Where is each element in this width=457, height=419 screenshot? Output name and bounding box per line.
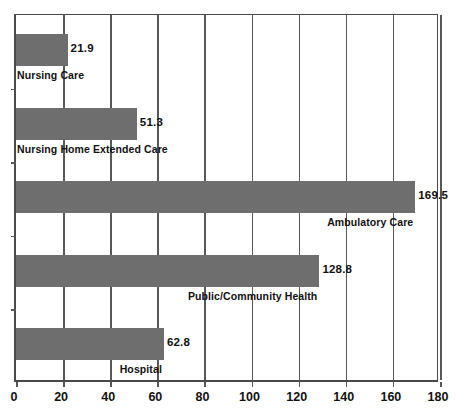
bar	[16, 181, 415, 213]
x-tick-label-40: 40	[101, 391, 115, 404]
bar-category-label: Public/Community Health	[188, 291, 317, 302]
bar-chart: 21.951.3169.5128.862.8 Nursing CareNursi…	[0, 0, 457, 419]
x-tick-140	[346, 382, 348, 387]
x-tick-40	[110, 382, 112, 387]
bar-value-label: 169.5	[418, 190, 448, 202]
x-tick-label-80: 80	[195, 391, 209, 404]
bar-category-label: Ambulatory Care	[327, 217, 413, 228]
bar	[16, 34, 68, 66]
y-tick-2	[11, 162, 16, 164]
bar-category-label: Nursing Care	[17, 70, 84, 81]
x-tick-label-120: 120	[286, 391, 307, 404]
bar	[16, 328, 164, 360]
x-tick-120	[299, 382, 301, 387]
bar-category-label: Nursing Home Extended Care	[17, 144, 168, 155]
x-tick-60	[157, 382, 159, 387]
bar-value-label: 128.8	[322, 264, 352, 276]
y-tick-3	[11, 236, 16, 238]
bar-value-label: 21.9	[71, 43, 94, 55]
x-tick-label-60: 60	[148, 391, 162, 404]
x-tick-160	[393, 382, 395, 387]
y-tick-1	[11, 89, 16, 91]
y-tick-4	[11, 309, 16, 311]
x-tick-label-100: 100	[239, 391, 260, 404]
x-tick-label-20: 20	[54, 391, 68, 404]
x-tick-label-180: 180	[428, 391, 449, 404]
bar-value-label: 62.8	[167, 337, 190, 349]
x-tick-20	[63, 382, 65, 387]
bar-category-label: Hospital	[120, 364, 162, 375]
bar-value-label: 51.3	[140, 117, 163, 129]
bar	[16, 255, 319, 287]
x-tick-label-160: 160	[380, 391, 401, 404]
x-tick-label-140: 140	[333, 391, 354, 404]
x-tick-180	[440, 382, 442, 387]
bar	[16, 108, 137, 140]
x-tick-0	[16, 382, 18, 387]
x-tick-80	[204, 382, 206, 387]
x-tick-100	[252, 382, 254, 387]
x-tick-label-0: 0	[11, 391, 18, 404]
